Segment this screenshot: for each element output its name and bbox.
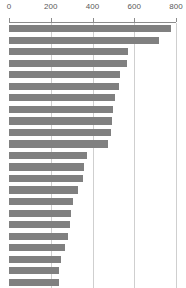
x-tick-label: 200 [44,2,57,12]
bar [9,233,68,240]
bars-series [0,23,186,288]
bar [9,186,78,193]
bar-row [0,184,186,196]
x-tick-label: 400 [86,2,99,12]
bar-row [0,161,186,173]
bar-row [0,23,186,35]
x-tick-label: 0 [7,2,11,12]
bar [9,221,70,228]
bar [9,60,127,67]
bar-row [0,207,186,219]
plot-area [0,23,186,288]
bar-row [0,196,186,208]
bar-row [0,58,186,70]
bar [9,94,115,101]
bar [9,37,159,44]
bar-row [0,138,186,150]
bar-row [0,35,186,47]
bar-chart: 0200400600800 [0,0,186,288]
bar [9,210,71,217]
bar [9,163,84,170]
bar-row [0,173,186,185]
bar [9,244,65,251]
bar-row [0,127,186,139]
bar-row [0,69,186,81]
x-tick-mark [51,18,52,22]
bar-row [0,230,186,242]
x-tick-mark [9,18,10,22]
bar-row [0,276,186,288]
bar-row [0,242,186,254]
bar-row [0,115,186,127]
bar-row [0,81,186,93]
bar [9,129,111,136]
x-tick-label: 800 [169,2,182,12]
bar [9,175,83,182]
bar [9,48,128,55]
bar-row [0,92,186,104]
bar-row [0,46,186,58]
bar [9,152,87,159]
bar-row [0,265,186,277]
bar [9,279,59,286]
x-tick-mark [93,18,94,22]
bar [9,71,120,78]
x-tick-label: 600 [128,2,141,12]
bar-row [0,253,186,265]
bar [9,106,113,113]
bar [9,256,61,263]
bar-row [0,104,186,116]
x-tick-mark [176,18,177,22]
bar [9,140,108,147]
bar-row [0,150,186,162]
bar [9,198,73,205]
x-tick-mark [134,18,135,22]
bar-row [0,219,186,231]
bar [9,83,119,90]
bar [9,25,171,32]
bar [9,267,59,274]
bar [9,117,112,124]
x-axis-tick-labels: 0200400600800 [0,0,186,16]
